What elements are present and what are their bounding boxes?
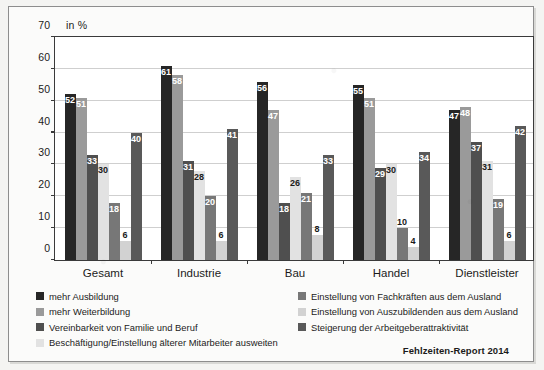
bar: 33	[323, 155, 334, 260]
bar: 47	[449, 110, 460, 260]
bar: 8	[312, 235, 323, 260]
legend-column-right: Einstellung von Fachkräften aus dem Ausl…	[298, 289, 544, 336]
bar: 30	[98, 164, 109, 260]
bar-value-label: 6	[122, 230, 127, 240]
legend-label: Einstellung von Fachkräften aus dem Ausl…	[311, 291, 501, 302]
y-axis-tick-label: 10	[38, 210, 50, 222]
y-axis-tick-label: 20	[38, 178, 50, 190]
legend-label: Beschäftigung/Einstellung älterer Mitarb…	[49, 337, 278, 348]
bar: 37	[471, 142, 482, 260]
legend-item: mehr Weiterbildung	[36, 305, 296, 319]
bar: 6	[504, 241, 515, 260]
bar-value-label: 51	[76, 99, 86, 109]
legend-label: mehr Weiterbildung	[49, 306, 130, 317]
bar-value-label: 28	[194, 172, 204, 182]
bar: 10	[397, 228, 408, 260]
bar: 31	[482, 161, 493, 260]
bar-value-label: 51	[364, 99, 374, 109]
legend-swatch-icon	[36, 308, 44, 316]
bar-value-label: 18	[279, 204, 289, 214]
bar-value-label: 56	[257, 83, 267, 93]
bar-value-label: 31	[183, 162, 193, 172]
bar: 18	[279, 203, 290, 260]
bar-value-label: 55	[353, 86, 363, 96]
chart-frame: in % 010203040506070 5251333018640Gesamt…	[8, 6, 534, 362]
x-axis-tick-mark	[247, 260, 248, 264]
plot-wrapper: in % 010203040506070 5251333018640Gesamt…	[22, 19, 538, 273]
bar: 42	[515, 126, 526, 260]
x-axis-tick-mark	[343, 260, 344, 264]
bar-value-label: 30	[98, 165, 108, 175]
legend-item: Einstellung von Auszubildenden aus dem A…	[298, 305, 544, 319]
bar-value-label: 26	[290, 178, 300, 188]
bar-value-label: 30	[386, 165, 396, 175]
legend-swatch-icon	[36, 323, 44, 331]
chart-figure: in % 010203040506070 5251333018640Gesamt…	[0, 0, 544, 370]
bar-value-label: 20	[205, 197, 215, 207]
bar: 6	[120, 241, 131, 260]
bar: 55	[353, 85, 364, 260]
x-axis-category-label: Dienstleister	[455, 267, 518, 279]
plot-area: 010203040506070 5251333018640Gesamt61583…	[54, 36, 534, 261]
bar-value-label: 34	[419, 153, 429, 163]
bar-group: 5251333018640Gesamt	[55, 37, 151, 260]
bar-value-label: 10	[397, 217, 407, 227]
x-axis-category-label: Bau	[285, 267, 305, 279]
bar-value-label: 58	[172, 76, 182, 86]
bar: 31	[183, 161, 194, 260]
bar: 61	[161, 66, 172, 260]
bar: 30	[386, 164, 397, 260]
x-axis-category-label: Industrie	[177, 267, 221, 279]
bar-group-bars: 5551293010434	[343, 37, 439, 260]
bar: 4	[408, 247, 419, 260]
bar-value-label: 40	[131, 134, 141, 144]
legend-label: mehr Ausbildung	[49, 291, 119, 302]
bar: 47	[268, 110, 279, 260]
legend-item: mehr Ausbildung	[36, 289, 296, 303]
bar-groups: 5251333018640Gesamt6158312820641Industri…	[55, 37, 533, 260]
legend-swatch-icon	[298, 323, 306, 331]
bar: 29	[375, 168, 386, 260]
bar: 34	[419, 152, 430, 260]
bar-group-bars: 4748373119642	[439, 37, 535, 260]
bar: 26	[290, 177, 301, 260]
legend-label: Vereinbarkeit von Familie und Beruf	[49, 322, 198, 333]
bar-value-label: 4	[410, 236, 415, 246]
legend-label: Steigerung der Arbeitgeberattraktivität	[311, 322, 468, 333]
bar-group: 5551293010434Handel	[343, 37, 439, 260]
bar: 19	[493, 199, 504, 260]
legend-swatch-icon	[298, 292, 306, 300]
bar-value-label: 8	[314, 224, 319, 234]
y-axis-tick-label: 40	[38, 115, 50, 127]
bar-value-label: 19	[493, 200, 503, 210]
bar: 21	[301, 193, 312, 260]
bar-value-label: 33	[87, 156, 97, 166]
legend-item: Steigerung der Arbeitgeberattraktivität	[298, 320, 544, 334]
x-axis-tick-mark	[151, 260, 152, 264]
legend-swatch-icon	[298, 308, 306, 316]
bar-group-bars: 6158312820641	[151, 37, 247, 260]
source-note: Fehlzeiten-Report 2014	[403, 345, 509, 356]
bar-group: 6158312820641Industrie	[151, 37, 247, 260]
legend-item: Einstellung von Fachkräften aus dem Ausl…	[298, 289, 544, 303]
bar-value-label: 31	[482, 162, 492, 172]
bar-value-label: 6	[506, 230, 511, 240]
bar: 48	[460, 107, 471, 260]
bar: 56	[257, 82, 268, 260]
bar-value-label: 6	[218, 230, 223, 240]
bar-value-label: 61	[161, 67, 171, 77]
bar-value-label: 52	[65, 95, 75, 105]
bar: 20	[205, 196, 216, 260]
y-axis-tick-label: 60	[38, 51, 50, 63]
bar: 51	[76, 98, 87, 260]
bar: 41	[227, 129, 238, 260]
y-axis-tick-label: 0	[44, 242, 50, 254]
bar-value-label: 48	[460, 108, 470, 118]
bar: 40	[131, 133, 142, 260]
legend-item: Beschäftigung/Einstellung älterer Mitarb…	[36, 336, 296, 350]
bar-value-label: 29	[375, 169, 385, 179]
bar-value-label: 42	[515, 127, 525, 137]
x-axis-category-label: Handel	[373, 267, 409, 279]
bar: 52	[65, 94, 76, 260]
legend-item: Vereinbarkeit von Familie und Beruf	[36, 320, 296, 334]
